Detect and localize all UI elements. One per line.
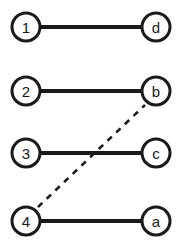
- node-b-label: b: [152, 83, 160, 100]
- node-d[interactable]: d: [142, 13, 170, 41]
- node-4[interactable]: 4: [12, 207, 40, 235]
- node-a[interactable]: a: [142, 207, 170, 235]
- node-d-label: d: [152, 19, 160, 36]
- node-3-label: 3: [22, 145, 30, 162]
- node-2-label: 2: [22, 83, 30, 100]
- node-3[interactable]: 3: [12, 139, 40, 167]
- edge-layer: [38, 27, 145, 221]
- node-c-label: c: [152, 145, 160, 162]
- node-2[interactable]: 2: [12, 77, 40, 105]
- node-a-label: a: [152, 213, 161, 230]
- node-b[interactable]: b: [142, 77, 170, 105]
- node-1[interactable]: 1: [12, 13, 40, 41]
- node-1-label: 1: [22, 19, 30, 36]
- diagram-canvas: 1 d 2 b 3 c: [0, 0, 185, 251]
- node-layer: 1 d 2 b 3 c: [12, 13, 170, 235]
- edge-4-b-dashed: [38, 105, 145, 207]
- node-c[interactable]: c: [142, 139, 170, 167]
- graph-diagram: 1 d 2 b 3 c: [0, 0, 185, 251]
- node-4-label: 4: [22, 213, 30, 230]
